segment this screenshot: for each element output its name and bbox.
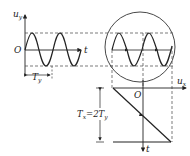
t-bottom-label: t (146, 144, 150, 154)
ux-axis-label: ux (177, 76, 187, 87)
uy-sine-curve (25, 33, 81, 66)
oscilloscope-screen (105, 12, 175, 82)
origin-left-label: O (14, 45, 22, 55)
t-left-label: t (84, 45, 88, 55)
oscilloscope-sweep-diagram: uy O t Ty ux O t Tx=2Ty (0, 0, 190, 156)
origin-right-label: O (134, 90, 142, 100)
screen-sine-curve (112, 33, 172, 66)
uy-axis-label: uy (13, 9, 23, 21)
uy-waveform-panel: uy O t Ty (13, 9, 175, 84)
ux-sweep-panel: ux O t Tx=2Ty (76, 76, 187, 154)
screen-circle (105, 12, 175, 82)
ty-label: Ty (32, 72, 42, 84)
